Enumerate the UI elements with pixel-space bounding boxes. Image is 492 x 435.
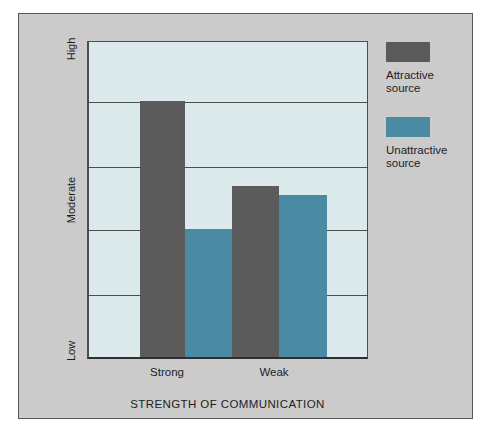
legend-entry-attractive[interactable]: Attractive source [386,42,470,95]
y-tick-label-high: High [63,27,79,71]
legend-swatch-attractive [386,42,430,62]
legend-entry-unattractive[interactable]: Unattractive source [386,117,470,170]
y-tick-label-moderate: Moderate [63,166,79,234]
plot-area [87,41,368,359]
legend-label-attractive: Attractive source [386,69,470,95]
bars-layer [89,42,367,357]
legend-label-attractive-line2: source [386,82,421,94]
y-tick-label-low: Low [63,329,79,373]
legend-swatch-unattractive [386,117,430,137]
legend-label-unattractive-line1: Unattractive [386,144,447,156]
legend-label-unattractive-line2: source [386,157,421,169]
x-tick-label-strong: Strong [127,366,207,378]
bar-weak-attractive[interactable] [232,186,279,357]
legend-label-unattractive: Unattractive source [386,144,470,170]
bar-strong-unattractive[interactable] [185,229,232,357]
bar-strong-attractive[interactable] [140,101,185,357]
figure-panel: ATTITUDINAL FAVORABILITY High Moderate L… [18,13,473,419]
x-tick-label-weak: Weak [234,366,314,378]
y-axis-title: ATTITUDINAL FAVORABILITY [0,14,1,332]
chart-legend: Attractive source Unattractive source [386,42,470,192]
x-axis-title: STRENGTH OF COMMUNICATION [87,398,368,410]
legend-label-attractive-line1: Attractive [386,69,434,81]
bar-weak-unattractive[interactable] [279,195,327,357]
